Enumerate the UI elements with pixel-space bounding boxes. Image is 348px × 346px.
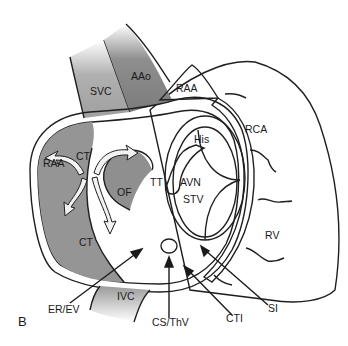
label-cs-thv: CS/ThV xyxy=(152,316,189,328)
label-rv: RV xyxy=(265,229,279,241)
raa-pectinate-region xyxy=(38,122,124,282)
label-raa-top: RAA xyxy=(176,82,198,94)
label-tt: TT xyxy=(150,176,163,188)
label-si: SI xyxy=(268,302,278,314)
label-of: OF xyxy=(117,186,132,198)
label-ivc: IVC xyxy=(117,290,135,302)
rca-branch xyxy=(258,199,292,202)
label-rca: RCA xyxy=(245,123,267,135)
label-his: His xyxy=(194,133,209,145)
rca-branch xyxy=(246,248,284,261)
label-raa-left: RAA xyxy=(43,157,65,169)
label-svc: SVC xyxy=(90,85,112,97)
panel-label: B xyxy=(18,314,27,329)
label-avn: AVN xyxy=(180,176,201,188)
label-ct-top: CT xyxy=(76,150,91,162)
label-cti: CTI xyxy=(226,312,243,324)
label-aao: AAo xyxy=(131,70,151,82)
right-atrium-diagram: SVC AAo RAA RCA RAA CT CT His TT AVN STV… xyxy=(0,0,348,346)
cs-ostium xyxy=(161,239,177,253)
label-stv: STV xyxy=(183,193,203,205)
label-ct-bottom: CT xyxy=(79,236,94,248)
label-er-ev: ER/EV xyxy=(48,303,80,315)
